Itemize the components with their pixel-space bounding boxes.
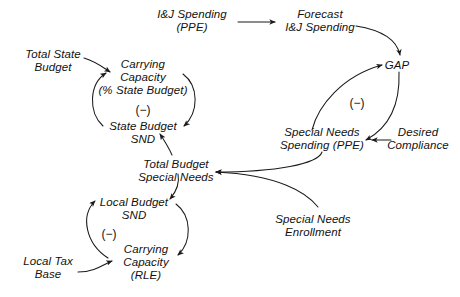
state-budget-snd-node: State BudgetSND [109, 120, 177, 146]
carrying-capacity-rle-node-line: Carrying [123, 243, 169, 256]
total-state-budget-node-line: Total State [25, 48, 81, 61]
link-special-needs-enrollment-to-total-budget-special-needs [216, 172, 318, 207]
ij-spending-node-line: (PPE) [157, 21, 227, 34]
local-budget-snd-node: Local BudgetSND [100, 196, 168, 222]
local-tax-base-node-line: Local Tax [23, 255, 73, 268]
state-budget-loop-polarity: (−) [136, 103, 151, 117]
total-state-budget-node: Total StateBudget [25, 48, 81, 74]
total-budget-special-needs-node: Total BudgetSpecial Needs [138, 158, 213, 184]
state-budget-snd-node-line: SND [109, 133, 177, 146]
total-budget-special-needs-node-line: Special Needs [138, 171, 213, 184]
carrying-capacity-state-budget-node: CarryingCapacity(% State Budget) [98, 58, 187, 97]
special-needs-enrollment-node-line: Enrollment [275, 226, 350, 239]
special-needs-enrollment-node-line: Special Needs [275, 213, 350, 226]
causal-loop-diagram: I&J Spending(PPE)ForecastI&J SpendingGAP… [0, 0, 460, 297]
forecast-ij-spending-node-line: Forecast [285, 8, 355, 21]
carrying-capacity-state-budget-node-line: (% State Budget) [98, 84, 187, 97]
local-tax-base-node-line: Base [23, 268, 73, 281]
total-state-budget-node-line: Budget [25, 61, 81, 74]
link-special-needs-spending-to-total-budget-special-needs [216, 152, 322, 172]
state-budget-snd-node-line: State Budget [109, 120, 177, 133]
ij-spending-node: I&J Spending(PPE) [157, 8, 227, 34]
desired-compliance-node-line: Desired [387, 126, 449, 139]
special-needs-spending-node-line: Spending (PPE) [280, 139, 364, 152]
link-forecast-to-gap [356, 26, 400, 55]
link-local-tax-base-to-carrying-capacity-rle [78, 261, 112, 272]
local-budget-snd-node-line: Local Budget [100, 196, 168, 209]
forecast-ij-spending-node-line: I&J Spending [285, 21, 355, 34]
special-needs-spending-node-line: Special Needs [280, 126, 364, 139]
link-special-needs-spending-to-gap [312, 65, 382, 130]
desired-compliance-node: DesiredCompliance [387, 126, 449, 152]
local-budget-loop-polarity: (−) [102, 227, 117, 241]
desired-compliance-node-line: Compliance [387, 139, 449, 152]
special-needs-enrollment-node: Special NeedsEnrollment [275, 213, 350, 239]
local-tax-base-node: Local TaxBase [23, 255, 73, 281]
total-budget-special-needs-node-line: Total Budget [138, 158, 213, 171]
gap-node-line: GAP [385, 59, 410, 72]
link-local-budget-snd-to-carrying-capacity-rle [176, 204, 188, 255]
forecast-ij-spending-node: ForecastI&J Spending [285, 8, 355, 34]
carrying-capacity-rle-node-line: (RLE) [123, 269, 169, 282]
local-budget-snd-node-line: SND [100, 209, 168, 222]
special-needs-spending-node: Special NeedsSpending (PPE) [280, 126, 364, 152]
carrying-capacity-rle-node-line: Capacity [123, 256, 169, 269]
gap-node: GAP [385, 59, 410, 72]
ij-spending-node-line: I&J Spending [157, 8, 227, 21]
carrying-capacity-state-budget-node-line: Capacity [98, 71, 187, 84]
carrying-capacity-rle-node: CarryingCapacity(RLE) [123, 243, 169, 282]
carrying-capacity-state-budget-node-line: Carrying [98, 58, 187, 71]
gap-loop-polarity: (−) [350, 96, 365, 110]
